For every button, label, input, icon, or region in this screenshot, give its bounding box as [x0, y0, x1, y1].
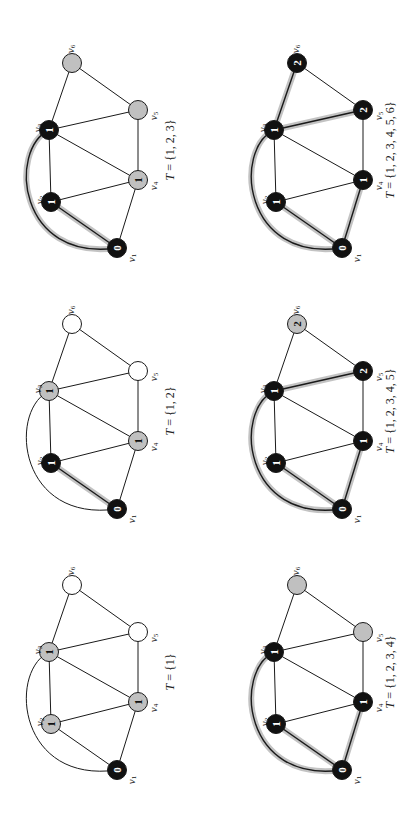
distance-label: 0	[336, 506, 348, 512]
distance-label: 1	[357, 699, 369, 705]
vertex-name-label: v1	[350, 253, 363, 262]
distance-label: 2	[357, 107, 369, 113]
vertex-v6	[288, 576, 307, 595]
distance-label: 0	[336, 245, 348, 251]
edge-v1-v3	[26, 391, 117, 510]
edge-v1-v3	[251, 130, 342, 249]
edge-v2-v4	[276, 441, 363, 463]
edge-v2-v3	[274, 391, 276, 463]
distance-label: 1	[270, 460, 282, 466]
vertex-name-label: v1	[350, 775, 363, 784]
edge-v3-v5	[49, 371, 138, 391]
vertex-name-label: v5	[147, 372, 160, 381]
edge-v3-v6	[274, 585, 297, 652]
edge-v1-v4	[117, 180, 138, 248]
edge-v3-v4	[274, 391, 363, 441]
edge-v3-v5	[274, 371, 363, 391]
tree-edge-halo	[251, 391, 342, 510]
edge-v5-v6	[72, 63, 138, 110]
distance-label: 1	[43, 388, 55, 394]
vertex-name-label: v6	[289, 44, 302, 53]
edge-v2-v3	[274, 130, 276, 202]
vertex-v6	[63, 54, 82, 73]
edge-v3-v6	[49, 63, 72, 130]
panel-caption: T = {1, 2, 3, 4, 5}	[383, 369, 397, 454]
vertex-name-label: v3	[31, 645, 44, 654]
panel-caption: T = {1, 2, 3, 4}	[383, 636, 397, 709]
edge-v5-v6	[297, 585, 363, 632]
distance-label: 1	[357, 177, 369, 183]
distance-label: 1	[43, 649, 55, 655]
panel-middle-right: 0v11v21v31v42v52v6T = {1, 2, 3, 4, 5}	[251, 305, 397, 523]
bfs-diagram: 0v11v21v31v4v5v6T = {1}0v11v21v31v4v5v6T…	[0, 0, 400, 822]
vertex-name-label: v2	[258, 717, 271, 726]
edge-v3-v6	[274, 63, 297, 130]
edge-v3-v5	[49, 632, 138, 652]
distance-label: 2	[357, 368, 369, 374]
distance-label: 2	[291, 321, 303, 327]
edge-v2-v3	[274, 652, 276, 724]
panel-caption: T = {1}	[163, 654, 177, 691]
edge-v1-v4	[342, 702, 363, 770]
edge-v3-v4	[49, 130, 138, 180]
edge-v2-v4	[276, 702, 363, 724]
vertex-v5	[129, 101, 148, 120]
tree-edge-halo	[251, 652, 342, 771]
vertex-name-label: v1	[350, 514, 363, 523]
panel-middle-left: 0v11v21v31v4v5v6T = {1, 2}	[26, 305, 177, 523]
vertex-name-label: v3	[256, 645, 269, 654]
edge-v3-v6	[49, 585, 72, 652]
tree-edge-halo	[26, 130, 117, 249]
vertex-name-label: v1	[125, 775, 138, 784]
edge-v1-v4	[342, 441, 363, 509]
edge-v2-v4	[51, 180, 138, 202]
vertex-name-label: v2	[33, 717, 46, 726]
vertex-name-label: v6	[289, 566, 302, 575]
vertex-name-label: v2	[258, 195, 271, 204]
vertex-v6	[63, 315, 82, 334]
vertex-name-label: v3	[31, 384, 44, 393]
distance-label: 1	[132, 699, 144, 705]
vertex-v5	[129, 623, 148, 642]
edge-v5-v6	[297, 63, 363, 110]
edge-v1-v3	[251, 391, 342, 510]
edge-v1-v4	[117, 702, 138, 770]
vertex-name-label: v6	[289, 305, 302, 314]
distance-label: 1	[43, 127, 55, 133]
vertex-v5	[129, 362, 148, 381]
edge-v2-v3	[49, 652, 51, 724]
edge-v1-v3	[26, 652, 117, 771]
vertex-name-label: v2	[258, 456, 271, 465]
edge-v3-v4	[274, 130, 363, 180]
vertex-name-label: v5	[147, 111, 160, 120]
distance-label: 1	[132, 438, 144, 444]
vertex-v5	[354, 623, 373, 642]
edge-v3-v4	[49, 391, 138, 441]
distance-label: 0	[111, 245, 123, 251]
distance-label: 1	[268, 127, 280, 133]
panel-top-right: 0v11v21v31v42v52v6T = {1, 2, 3, 4, 5, 6}	[251, 44, 397, 262]
vertex-name-label: v1	[125, 514, 138, 523]
edge-v3-v6	[274, 324, 297, 391]
vertex-v6	[63, 576, 82, 595]
tree-edge-halo	[251, 130, 342, 249]
panel-caption: T = {1, 2}	[163, 387, 177, 436]
edge-v2-v3	[49, 130, 51, 202]
edge-v1-v3	[26, 130, 117, 249]
edge-v3-v4	[49, 652, 138, 702]
distance-label: 0	[111, 767, 123, 773]
distance-label: 1	[45, 721, 57, 727]
edge-v3-v4	[274, 652, 363, 702]
panel-top-left: 0v11v21v31v4v5v6T = {1, 2, 3}	[26, 44, 177, 262]
edge-v2-v3	[49, 391, 51, 463]
edge-v5-v6	[72, 585, 138, 632]
edge-v1-v2	[51, 724, 117, 770]
vertex-name-label: v3	[256, 123, 269, 132]
panel-caption: T = {1, 2, 3, 4, 5, 6}	[383, 102, 397, 199]
edge-v5-v6	[297, 324, 363, 371]
vertex-name-label: v3	[31, 123, 44, 132]
vertex-name-label: v2	[33, 456, 46, 465]
distance-label: 1	[268, 388, 280, 394]
edge-v2-v4	[276, 180, 363, 202]
distance-label: 1	[132, 177, 144, 183]
